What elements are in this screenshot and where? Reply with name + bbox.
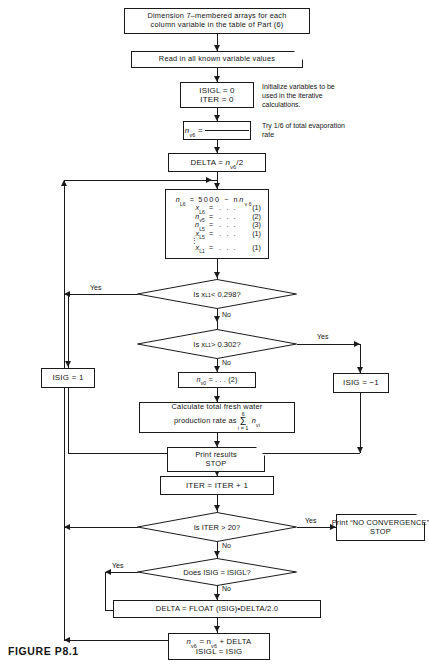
read-input-io: Read in all known variable values [131, 51, 303, 68]
connector-testisig-yes-down [105, 572, 106, 610]
edge-label-no-testiter: No [222, 542, 231, 549]
calc-line-1: Calculate total fresh water [172, 403, 263, 412]
eq-lhs-subscript: L1 [199, 249, 205, 254]
eq-tag: (1) [239, 244, 261, 252]
annotation-initialize: Initialize variables to be used in the i… [262, 82, 402, 110]
set-isig-negative-process: ISIG = −1 [333, 373, 389, 393]
dimension-line-2: column variable in the table of Part (6) [151, 21, 284, 30]
set-isig-positive-label: ISIG = 1 [52, 373, 83, 382]
decision-suffix: > 0.302? [211, 340, 241, 349]
equation-row: nv5 = . . . (2) [175, 213, 261, 221]
edge-label-no-testhigh: No [222, 359, 231, 366]
update-nv6-process: nv6 = nv6 + DELTA ISIGL = ISIG [168, 633, 270, 660]
eq-lhs: xL1 [175, 244, 205, 252]
nv0-symbol: n [196, 375, 200, 384]
increment-iteration-label: ITER = ITER + 1 [186, 481, 248, 490]
annotation-try-sixth: Try 1/6 of total evaporation rate [262, 121, 412, 139]
decision-prefix: Is x [193, 290, 205, 299]
compute-equations-process: nL6 = 5000 − nnv6 xL6 = . . . (1) nv5 = … [165, 189, 269, 259]
update-nv6-line-1: nv6 = nv6 + DELTA [186, 637, 251, 646]
nv6-subscript: v6 [230, 164, 236, 170]
edge-label-yes-testhigh: Yes [317, 333, 328, 340]
nv6-subscript: v6 [189, 132, 195, 138]
test-iteration-limit-label: Is ITER > 20? [137, 512, 297, 542]
arrowhead-down [214, 316, 220, 322]
guess-nv6-label: nv6 = [185, 126, 250, 135]
left-return-rail [64, 180, 65, 640]
connector-testlow-yes [64, 294, 138, 295]
arrowhead-left [64, 637, 70, 643]
set-isig-positive-process: ISIG = 1 [41, 368, 95, 388]
equation-row: nL6 = 5000 − nnv6 [175, 196, 261, 204]
update-mid: = n [199, 637, 211, 646]
edge-label-no-testlow: No [222, 311, 231, 318]
delta-init-process: DELTA = nv6/2 [168, 153, 266, 172]
eq-tag: (1) [239, 230, 261, 238]
isigl-init-label: ISIGL = 0 [199, 86, 235, 95]
summation-operator: 6 Σ i = 1 [238, 412, 249, 431]
arrowhead-up [61, 180, 67, 186]
iter-init-label: ITER = 0 [200, 95, 233, 104]
nv6-subscript-rhs: v6 [211, 643, 217, 649]
calculate-total-fresh-water-process: Calculate total fresh water production r… [139, 402, 295, 433]
nv0-subscript: v0 [201, 381, 207, 386]
edge-label-yes-testiter: Yes [305, 517, 316, 524]
eq-rhs-subscript: v6 [245, 202, 253, 207]
connector-testiter-left [64, 527, 138, 528]
halve-delta-process: DELTA = FLOAT (ISIG)•DELTA/2.0 [113, 600, 321, 618]
test-iteration-limit-decision: Is ITER > 20? [137, 512, 297, 542]
connector-isigneg-down [360, 393, 361, 453]
test-xl1-below-decision: Is xL1 < 0.298? [137, 279, 297, 309]
eq-lhs-subscript: L5 [199, 227, 205, 232]
test-sign-change-decision: Does ISIG = ISIGL? [137, 558, 297, 586]
decision-prefix: Is x [193, 340, 205, 349]
compute-nv0-process: nv0 = . . . (2) [178, 372, 256, 388]
print-results-io: Print results STOP [167, 447, 265, 472]
print-results-line-2: STOP [206, 460, 227, 469]
increment-iteration-process: ITER = ITER + 1 [160, 476, 274, 495]
equation-row: nL5 = . . . (3) [175, 221, 261, 229]
eq-lhs-subscript: L6 [199, 210, 205, 215]
eq-rhs-symbol: n [239, 195, 245, 204]
eq-lhs-subscript: L5 [199, 235, 205, 240]
arrowhead-down [214, 626, 220, 632]
figure-caption: FIGURE P8.1 [8, 645, 79, 657]
eq-equals: = [205, 230, 217, 238]
arrowhead-right [206, 177, 212, 183]
eq-rhs: . . . [217, 244, 239, 252]
connector-testhigh-yes [297, 344, 360, 345]
eq-lhs-subscript: v5 [199, 218, 205, 223]
equation-row: xL5 = . . . (1) [175, 230, 261, 238]
nvi-subscript: vi [256, 422, 260, 428]
arrowhead-down [357, 447, 363, 453]
sum-term: nvi [252, 417, 260, 426]
calc-line-2-prefix: production rate as [174, 417, 237, 426]
arrowhead-right [354, 341, 360, 347]
blank-value-rule [205, 130, 249, 131]
edge-label-yes-testlow: Yes [90, 284, 101, 291]
calc-line-2: production rate as 6 Σ i = 1 nvi [174, 412, 260, 431]
arrowhead-left [64, 291, 70, 297]
eq-lhs-subscript: L6 [180, 202, 186, 207]
nv6-subscript-lhs: v6 [191, 643, 197, 649]
initialize-counters-process: ISIGL = 0 ITER = 0 [180, 82, 254, 108]
test-xl1-below-label: Is xL1 < 0.298? [137, 279, 297, 309]
set-isig-negative-label: ISIG = −1 [343, 378, 379, 387]
read-input-label: Read in all known variable values [159, 55, 275, 64]
guess-nv6-process: nv6 = [183, 121, 251, 140]
halve-delta-label: DELTA = FLOAT (ISIG)•DELTA/2.0 [156, 605, 278, 614]
eq-lhs: nL6 [175, 196, 186, 204]
sum-lower-limit: i = 1 [238, 426, 249, 431]
print-no-convergence-io: Print “NO CONVERGENCE” STOP [336, 514, 425, 541]
delta-init-label: DELTA = nv6/2 [191, 158, 244, 167]
edge-label-yes-testisig: Yes [112, 562, 123, 569]
eq-rhs: . . . [217, 230, 239, 238]
eq-equals: = [205, 244, 217, 252]
connector-update-to-leftrail [64, 640, 168, 641]
arrowhead-left [64, 524, 70, 530]
connector-leftrail-into-equations [64, 180, 217, 181]
compute-nv0-label: nv0 = . . . (2) [196, 376, 237, 384]
delta-prefix: DELTA = [191, 158, 226, 167]
edge-label-no-testisig: No [222, 585, 231, 592]
